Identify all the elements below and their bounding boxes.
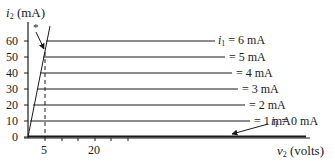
label-i1-4: = 4 mA	[236, 67, 273, 79]
xtick-20: 20	[88, 144, 100, 156]
xtick-5: 5	[41, 144, 47, 156]
ytick-0: 0	[12, 131, 18, 143]
ytick-40: 40	[6, 67, 18, 79]
label-i1-5: = 5 mA	[229, 51, 266, 63]
label-i1-6: i1 = 6 mA	[218, 34, 265, 48]
label-i1-2: = 2 mA	[249, 99, 286, 111]
curves	[30, 41, 250, 121]
star-annotation: *	[33, 22, 39, 33]
ytick-30: 30	[6, 83, 18, 95]
label-i1-3: = 3 mA	[242, 83, 279, 95]
label-i1-0: i1 = 0 mA	[271, 115, 318, 129]
y-axis-label: i2 (mA)	[6, 6, 45, 21]
x-axis-label: v2 (volts)	[277, 144, 324, 159]
ytick-10: 10	[6, 115, 18, 127]
chart-plot-area	[0, 0, 335, 168]
ytick-50: 50	[6, 51, 18, 63]
saturation-line	[28, 26, 50, 137]
ytick-60: 60	[6, 35, 18, 47]
star-arrow	[36, 32, 44, 49]
transistor-characteristic-chart: i2 (mA) * 0 10 20 30 40 50 60 5 20 i1 = …	[0, 0, 335, 168]
ytick-20: 20	[6, 99, 18, 111]
